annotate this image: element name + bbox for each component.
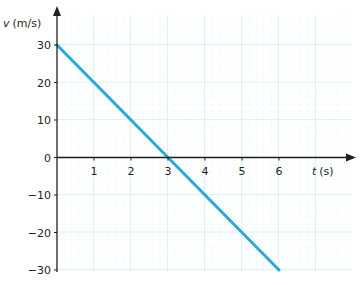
x-tick-label: 5 bbox=[239, 165, 246, 178]
y-tick-label: 0 bbox=[44, 152, 51, 165]
y-tick-label: −10 bbox=[28, 189, 51, 202]
x-axis-label: t(s) bbox=[312, 165, 334, 178]
x-tick-label: 4 bbox=[202, 165, 209, 178]
y-axis-label: v(m/s) bbox=[3, 17, 41, 30]
x-tick-label: 3 bbox=[165, 165, 172, 178]
x-tick-label: 2 bbox=[128, 165, 135, 178]
y-tick-label: 10 bbox=[37, 114, 51, 127]
x-tick-label: 1 bbox=[91, 165, 98, 178]
x-tick-label: 6 bbox=[276, 165, 283, 178]
y-axis-arrow-icon bbox=[53, 6, 61, 16]
grid bbox=[57, 15, 352, 272]
y-tick-labels: 3020100−10−20−30 bbox=[28, 39, 57, 277]
y-tick-label: −30 bbox=[28, 264, 51, 277]
y-tick-label: 30 bbox=[37, 39, 51, 52]
y-tick-label: −20 bbox=[28, 227, 51, 240]
y-tick-label: 20 bbox=[37, 77, 51, 90]
velocity-time-graph: 3020100−10−20−30 123456 v(m/s) t(s) bbox=[0, 0, 363, 285]
